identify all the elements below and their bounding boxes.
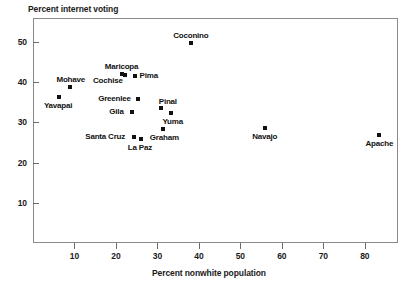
y-axis-title: Percent internet voting <box>28 4 118 14</box>
scatter-chart-figure: Percent internet voting 1020304050 10203… <box>0 0 418 293</box>
data-point-marker <box>139 137 143 141</box>
data-point-label: Cochise <box>93 76 123 85</box>
data-point-label: Yavapai <box>44 101 72 110</box>
data-point-marker <box>68 85 72 89</box>
data-point-marker <box>161 127 165 131</box>
x-tick-label: 20 <box>104 251 128 261</box>
x-tick-label: 50 <box>228 251 252 261</box>
x-tick-mark <box>240 243 241 249</box>
x-tick-mark <box>199 243 200 249</box>
x-tick-label: 10 <box>62 251 86 261</box>
data-point-marker <box>57 95 61 99</box>
data-point-marker <box>132 135 136 139</box>
data-point-label: Yuma <box>162 117 183 126</box>
y-tick-mark <box>33 42 39 43</box>
data-point-marker <box>159 106 163 110</box>
x-axis-title: Percent nonwhite population <box>0 268 418 278</box>
data-point-label: Gila <box>109 107 123 116</box>
y-tick-mark <box>33 122 39 123</box>
x-tick-mark <box>74 243 75 249</box>
x-tick-label: 80 <box>353 251 377 261</box>
y-tick-mark <box>33 203 39 204</box>
y-tick-label: 50 <box>3 37 27 47</box>
data-point-marker <box>263 126 267 130</box>
data-point-label: Greenlee <box>98 94 131 103</box>
x-tick-label: 70 <box>311 251 335 261</box>
data-point-marker <box>377 133 381 137</box>
data-point-marker <box>130 110 134 114</box>
data-point-label: La Paz <box>128 143 152 152</box>
data-point-label: Coconino <box>173 31 208 40</box>
y-tick-mark <box>33 82 39 83</box>
data-point-marker <box>136 97 140 101</box>
data-point-label: Pinal <box>159 97 177 106</box>
data-point-label: Navajo <box>252 132 277 141</box>
plot-area <box>33 18 398 243</box>
data-point-label: Mohave <box>56 75 85 84</box>
x-tick-mark <box>116 243 117 249</box>
x-tick-mark <box>282 243 283 249</box>
x-tick-mark <box>365 243 366 249</box>
x-tick-mark <box>323 243 324 249</box>
data-point-label: Apache <box>365 139 393 148</box>
y-tick-label: 40 <box>3 77 27 87</box>
data-point-label: Santa Cruz <box>85 132 125 141</box>
data-point-marker <box>133 74 137 78</box>
x-tick-label: 60 <box>270 251 294 261</box>
data-point-label: Pima <box>140 71 158 80</box>
y-tick-label: 20 <box>3 158 27 168</box>
y-tick-label: 30 <box>3 117 27 127</box>
data-point-marker <box>123 73 127 77</box>
data-point-label: Graham <box>150 133 179 142</box>
x-tick-label: 40 <box>187 251 211 261</box>
y-tick-mark <box>33 163 39 164</box>
x-tick-label: 30 <box>145 251 169 261</box>
y-tick-label: 10 <box>3 198 27 208</box>
data-point-marker <box>169 111 173 115</box>
data-point-label: Maricopa <box>105 62 139 71</box>
x-tick-mark <box>157 243 158 249</box>
data-point-marker <box>189 41 193 45</box>
